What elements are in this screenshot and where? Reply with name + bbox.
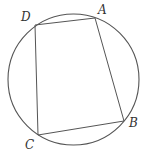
quadrilateral-edges	[35, 18, 124, 135]
vertex-label-a: A	[97, 3, 107, 17]
vertex-label-d: D	[20, 10, 31, 24]
vertex-label-c: C	[25, 138, 34, 152]
circumscribed-circle	[8, 14, 139, 145]
cyclic-quadrilateral-diagram: ABCD	[0, 0, 146, 159]
edge-cd	[35, 25, 38, 135]
vertex-label-b: B	[128, 116, 138, 130]
